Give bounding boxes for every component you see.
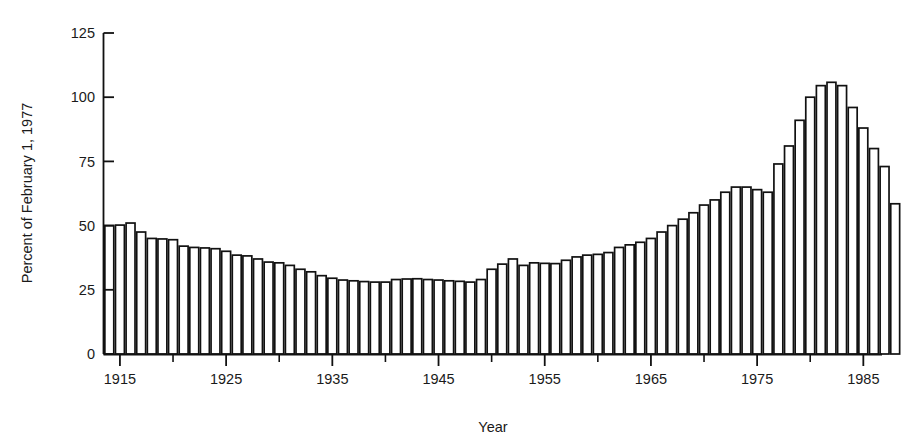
bar xyxy=(838,86,847,354)
bar xyxy=(115,225,124,354)
y-tick-label: 100 xyxy=(71,89,95,105)
bar xyxy=(806,97,815,354)
bar xyxy=(646,238,655,354)
bar xyxy=(625,245,634,354)
bar xyxy=(668,226,677,354)
bar xyxy=(604,253,613,354)
bar xyxy=(360,282,369,354)
bar xyxy=(785,146,794,354)
bar xyxy=(540,263,549,354)
bar-chart: 0255075100125 19151925193519451955196519… xyxy=(0,0,912,448)
x-tick-label: 1955 xyxy=(529,371,561,387)
bar xyxy=(636,242,645,354)
y-axis-title: Percent of February 1, 1977 xyxy=(19,103,35,284)
y-tick-label: 25 xyxy=(79,282,95,298)
bar xyxy=(402,279,411,354)
x-tick-label: 1915 xyxy=(104,371,136,387)
bar xyxy=(211,249,220,354)
x-tick-label: 1965 xyxy=(635,371,667,387)
bar xyxy=(891,204,900,354)
bar xyxy=(222,251,231,354)
bar xyxy=(381,282,390,354)
bar xyxy=(126,223,135,354)
bar xyxy=(700,205,709,354)
bar xyxy=(307,272,316,354)
y-tick-label: 75 xyxy=(79,154,95,170)
bar xyxy=(232,255,241,354)
bar xyxy=(169,240,178,354)
bar xyxy=(243,256,252,354)
bar xyxy=(689,213,698,354)
bar xyxy=(179,246,188,354)
bar xyxy=(721,192,730,354)
bar xyxy=(869,149,878,354)
x-tick-label: 1985 xyxy=(847,371,879,387)
bar xyxy=(530,263,539,354)
bar xyxy=(455,281,464,354)
bar xyxy=(551,264,560,354)
bar xyxy=(519,265,528,354)
bar xyxy=(434,280,443,354)
bar xyxy=(880,167,889,354)
bar xyxy=(827,82,836,354)
bar xyxy=(753,190,762,354)
bar xyxy=(498,264,507,354)
bar xyxy=(774,164,783,354)
bar xyxy=(392,280,401,354)
bar xyxy=(317,276,326,354)
bar xyxy=(487,269,496,354)
bar xyxy=(466,282,475,354)
bar xyxy=(583,255,592,354)
bar xyxy=(710,200,719,354)
x-tick-label: 1925 xyxy=(210,371,242,387)
x-tick-label: 1975 xyxy=(741,371,773,387)
bar xyxy=(285,265,294,354)
bar xyxy=(349,281,358,354)
x-tick-label: 1945 xyxy=(422,371,454,387)
bar xyxy=(254,259,263,354)
bar xyxy=(859,128,868,354)
bar xyxy=(296,269,305,354)
bar xyxy=(615,247,624,354)
bar xyxy=(477,280,486,354)
bar xyxy=(795,120,804,354)
bar xyxy=(848,107,857,354)
bar xyxy=(328,278,337,354)
chart-figure: 0255075100125 19151925193519451955196519… xyxy=(0,0,912,448)
y-tick-label: 50 xyxy=(79,218,95,234)
x-axis-title: Year xyxy=(478,419,507,435)
bar xyxy=(264,262,273,354)
bar xyxy=(190,247,199,354)
bar xyxy=(445,281,454,354)
bar xyxy=(572,257,581,354)
bar xyxy=(275,263,284,354)
bar xyxy=(816,86,825,354)
y-tick-label: 125 xyxy=(71,25,95,41)
bar xyxy=(562,260,571,354)
bar xyxy=(370,282,379,354)
bar xyxy=(657,232,666,354)
bar xyxy=(137,232,146,354)
bar xyxy=(742,187,751,354)
bar xyxy=(158,239,167,354)
bar xyxy=(413,279,422,354)
x-tick-label: 1935 xyxy=(316,371,348,387)
bar xyxy=(508,259,517,354)
y-tick-label: 0 xyxy=(87,346,95,362)
bar xyxy=(423,280,432,354)
bar xyxy=(200,248,209,354)
bar xyxy=(763,192,772,354)
bar xyxy=(147,238,156,354)
bar xyxy=(338,280,347,354)
bar xyxy=(678,219,687,354)
bar xyxy=(731,187,740,354)
bar xyxy=(593,254,602,354)
